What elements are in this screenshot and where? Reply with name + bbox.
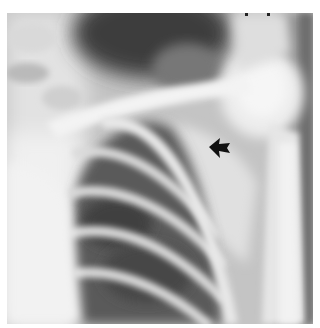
- marker-dot: [267, 13, 270, 16]
- marker-dot: [245, 13, 248, 16]
- radiograph-drawing: [7, 13, 313, 324]
- radiograph-image: [7, 13, 313, 324]
- arrow-annotation-icon: [209, 138, 231, 158]
